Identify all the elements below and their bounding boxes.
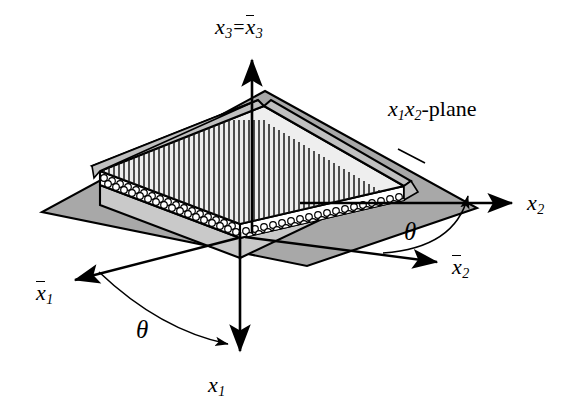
theta-arc-left [99, 272, 228, 344]
x2-subscript: 2 [537, 202, 544, 217]
axis-label-x1-bar: x1 [36, 282, 53, 307]
axis-label-x3: x3=x3 [215, 16, 263, 41]
axis-label-x2: x2 [527, 192, 544, 217]
plane-x1-subscript: 1 [398, 108, 405, 123]
label-theta-right: θ [404, 218, 416, 246]
x2-bar-overline: x [452, 256, 462, 278]
plane-x2-subscript: 2 [415, 108, 422, 123]
axis-x1-bar [75, 238, 238, 280]
x3-subscript: 3 [225, 26, 232, 41]
figure-canvas: x3=x3 x1x2-plane x2 x2 x1 x1 θ θ [0, 0, 571, 418]
x2-bar-base: x [452, 254, 462, 279]
x2-bar-subscript: 2 [462, 266, 469, 281]
x1-bar-base: x [36, 280, 46, 305]
x3-bar-base: x [246, 14, 256, 39]
label-theta-left: θ [136, 316, 148, 344]
x3-bar-overline: x [246, 16, 256, 38]
plane-x1-base: x [388, 96, 398, 121]
x3-base: x [215, 14, 225, 39]
x1-bar-overline: x [36, 282, 46, 304]
label-x1x2-plane: x1x2-plane [388, 96, 477, 124]
axis-label-x1: x1 [208, 374, 225, 399]
plane-suffix: -plane [422, 96, 477, 121]
x2-base: x [527, 190, 537, 215]
x1-bar-subscript: 1 [46, 292, 53, 307]
diagram-svg [0, 0, 571, 418]
x1-subscript: 1 [218, 384, 225, 399]
plane-label-leader-line [398, 149, 425, 163]
plane-x2-base: x [405, 96, 415, 121]
x1-base: x [208, 372, 218, 397]
x3-bar-subscript: 3 [256, 26, 263, 41]
x3-equals-sign: = [233, 16, 244, 38]
axis-label-x2-bar: x2 [452, 256, 469, 281]
